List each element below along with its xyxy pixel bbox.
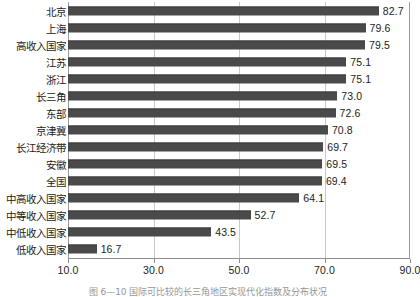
x-tick-label: 70.0 (314, 264, 335, 276)
category-label: 京津冀 (36, 122, 66, 137)
bar-value-label: 64.1 (303, 192, 324, 204)
bar-value-label: 52.7 (255, 209, 276, 221)
category-label: 安徽 (46, 157, 66, 172)
category-label: 江苏 (46, 54, 66, 69)
bar-row: 中高收入国家64.1 (0, 190, 416, 207)
category-label: 上海 (46, 20, 66, 35)
bar-row: 安徽69.5 (0, 156, 416, 173)
bar-row: 京津冀70.8 (0, 121, 416, 138)
bar-row: 东部72.6 (0, 104, 416, 121)
tick-mark (154, 259, 155, 263)
bar-value-label: 69.4 (326, 175, 347, 187)
category-label: 低收入国家 (16, 242, 66, 257)
bar-value-label: 70.8 (332, 124, 353, 136)
bar-value-label: 75.1 (350, 73, 371, 85)
bar-row: 全国69.4 (0, 173, 416, 190)
bar-row: 上海79.6 (0, 19, 416, 36)
x-tick-label: 50.0 (229, 264, 250, 276)
x-tick-label: 30.0 (143, 264, 164, 276)
category-label: 东部 (46, 105, 66, 120)
tick-mark (410, 259, 411, 263)
bar-row: 北京82.7 (0, 2, 416, 19)
bar-value-label: 79.5 (369, 39, 390, 51)
bar (68, 228, 211, 237)
category-label: 长三角 (36, 88, 66, 103)
bar-value-label: 73.0 (341, 90, 362, 102)
bar-row: 中低收入国家43.5 (0, 224, 416, 241)
bar (68, 74, 346, 83)
bar-value-label: 75.1 (350, 56, 371, 68)
bar (68, 177, 322, 186)
bar (68, 160, 322, 169)
bar-value-label: 72.6 (340, 107, 361, 119)
category-label: 全国 (46, 174, 66, 189)
figure-caption: 图 6—10 国际可比较的长三角地区实现代化指数及分布状况 (0, 285, 416, 297)
bar (68, 6, 379, 15)
category-label: 浙江 (46, 71, 66, 86)
bar-value-label: 79.6 (370, 22, 391, 34)
bar (68, 91, 337, 100)
bar-row: 浙江75.1 (0, 70, 416, 87)
bar-value-label: 82.7 (383, 5, 404, 17)
bar-value-label: 43.5 (215, 226, 236, 238)
bar-value-label: 69.5 (326, 158, 347, 170)
bar-value-label: 69.7 (327, 141, 348, 153)
bar-row: 长江经济带69.7 (0, 139, 416, 156)
bar-row: 低收入国家16.7 (0, 241, 416, 258)
category-label: 中低收入国家 (6, 225, 66, 240)
bar-row: 长三角73.0 (0, 87, 416, 104)
bar-row: 江苏75.1 (0, 53, 416, 70)
bar (68, 57, 346, 66)
x-tick-label: 10.0 (58, 264, 79, 276)
category-label: 高收入国家 (16, 37, 66, 52)
tick-mark (239, 259, 240, 263)
bar (68, 23, 366, 32)
bar (68, 143, 323, 152)
tick-mark (68, 259, 69, 263)
bar-row: 中等收入国家52.7 (0, 207, 416, 224)
x-tick-label: 90.0 (400, 264, 420, 276)
bar (68, 194, 299, 203)
category-label: 中高收入国家 (6, 191, 66, 206)
bar (68, 245, 97, 254)
bar (68, 108, 336, 117)
category-label: 北京 (46, 3, 66, 18)
bar (68, 40, 365, 49)
bar-value-label: 16.7 (101, 243, 122, 255)
category-label: 长江经济带 (16, 140, 66, 155)
bar-row: 高收入国家79.5 (0, 36, 416, 53)
bar (68, 125, 328, 134)
tick-mark (325, 259, 326, 263)
category-label: 中等收入国家 (6, 208, 66, 223)
bar (68, 211, 251, 220)
